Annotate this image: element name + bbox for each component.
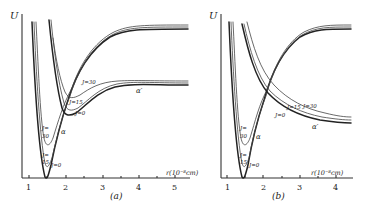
label-alpha: α	[61, 128, 66, 136]
label-alpha-prime: α′	[312, 123, 319, 131]
label-j15-upper: J=15	[286, 104, 301, 111]
x-tick-label: 3	[100, 183, 105, 192]
label-j15-upper: J=15	[68, 99, 83, 106]
curve-alpha-j0	[32, 22, 188, 178]
x-axis-label: r(10⁻⁸cm)	[311, 169, 344, 177]
x-tick-label: 5	[172, 183, 177, 192]
label-alpha: α	[256, 133, 261, 141]
curve-alpha-prime-j30	[53, 38, 188, 98]
curve-alpha-j30	[233, 22, 351, 145]
y-axis-label: U	[10, 10, 19, 21]
label-j15-lower-a: J=	[41, 152, 49, 159]
x-tick-label: 3	[297, 183, 302, 192]
label-alpha-prime: α′	[136, 87, 143, 95]
label-j30-upper: J=30	[302, 103, 317, 110]
x-tick-label: 4	[333, 183, 338, 192]
label-j0-upper: J=0	[74, 110, 86, 117]
panel-a: 1 2 3 4 5 U r(10⁻⁸cm) (a) J=30 J=15 J=0 …	[10, 10, 199, 201]
x-tick-label: 1	[26, 183, 31, 192]
label-j30-lower-a: J=	[239, 125, 247, 132]
label-j15-lower-a: J=	[239, 152, 247, 159]
label-j30-upper: J=30	[81, 79, 96, 86]
label-j0-upper: J=0	[274, 112, 286, 119]
label-j30-lower-a: J=	[41, 125, 49, 132]
panel-b: 1 2 3 4 U r(10⁻⁸cm) (b) J=30 J=15 J=0 α′…	[209, 10, 353, 201]
x-tick-label: 2	[261, 183, 266, 192]
panel-caption: (b)	[272, 191, 285, 201]
label-j0-lower: J=0	[248, 162, 260, 169]
figure: 1 2 3 4 5 U r(10⁻⁸cm) (a) J=30 J=15 J=0 …	[0, 0, 365, 208]
y-axis-label: U	[209, 10, 218, 21]
x-tick-label: 4	[136, 183, 141, 192]
label-j0-lower: J=0	[50, 162, 62, 169]
x-tick-label: 2	[63, 183, 68, 192]
x-tick-label: 1	[225, 183, 230, 192]
x-axis-label: r(10⁻⁸cm)	[166, 169, 199, 177]
label-j15-lower-b: 15	[42, 159, 49, 165]
label-j15-lower-b: 15	[240, 159, 247, 165]
panel-caption: (a)	[110, 191, 123, 201]
label-j30-lower-b: 30	[240, 133, 247, 139]
curve-alpha-j30	[36, 22, 188, 145]
curve-alpha-j15	[34, 22, 188, 167]
label-j30-lower-b: 30	[42, 133, 49, 139]
